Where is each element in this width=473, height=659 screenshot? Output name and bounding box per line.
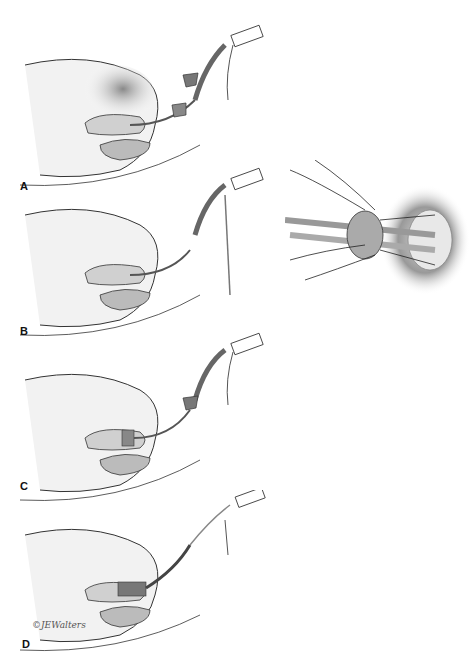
panel-d: ©JEWalters D xyxy=(0,490,290,655)
pelvic-illustration-d xyxy=(0,490,290,659)
panel-b: B xyxy=(0,165,290,330)
panel-a: A xyxy=(0,5,290,170)
device-detail-illustration xyxy=(285,160,470,310)
panel-label: D xyxy=(22,638,30,650)
device-detail-inset xyxy=(285,160,470,310)
pelvic-illustration-c xyxy=(0,330,290,515)
artist-signature: ©JEWalters xyxy=(32,620,86,630)
pelvic-illustration-b xyxy=(0,165,290,350)
panel-c: C xyxy=(0,330,290,495)
pelvic-illustration-a xyxy=(0,5,290,190)
